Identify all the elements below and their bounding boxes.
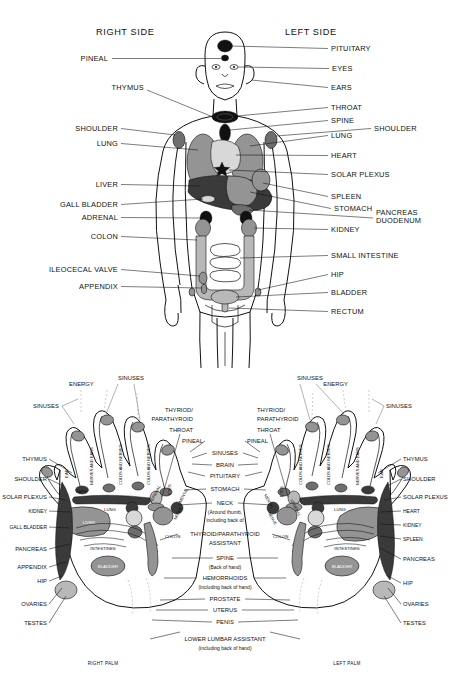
palm-label-intestines-right: INTESTINES — [90, 546, 115, 551]
body-label-lung: LUNG — [97, 139, 118, 148]
body-label-lung-right: LUNG — [331, 131, 352, 140]
hand-label-appendix-left: APPENDIX — [17, 564, 47, 570]
body-label-spleen: SPLEEN — [331, 192, 361, 201]
pituitary-point — [218, 40, 233, 52]
body-label-thymus: THYMUS — [112, 83, 144, 92]
hand-label-thyroid-right-1: THYRIOD/ — [165, 407, 193, 413]
hand-label-throat-left: THROAT — [257, 427, 281, 433]
gall-bladder-organ — [201, 196, 215, 203]
hand-label-thymus-right: THYMUS — [403, 456, 428, 462]
palm-label-colon-right: COLON — [165, 534, 180, 539]
body-label-eyes: EYES — [332, 64, 353, 73]
hand-label-heart-right: HEART — [403, 508, 420, 514]
center-label-thyroid-assistant-2: ASSISTANT — [209, 540, 242, 546]
spine-point — [220, 124, 231, 142]
palm-label-colon-left: COLON — [273, 534, 288, 539]
body-label-pineal: PINEAL — [81, 54, 109, 63]
body-label-colon: COLON — [91, 232, 118, 241]
hand-label-sinuses-right-top: SINUSES — [118, 375, 144, 381]
caption-right-palm: RIGHT PALM — [88, 661, 119, 666]
body-label-small-intestine: SMALL INTESTINE — [331, 251, 399, 260]
hand-label-throat-right: THROAT — [169, 427, 193, 433]
body-label-bladder: BLADDER — [331, 288, 367, 297]
finger-label-eyes-left: EYES — [279, 486, 284, 497]
body-label-appendix: APPENDIX — [79, 282, 118, 291]
hand-label-sinuses-left-top: SINUSES — [297, 375, 323, 381]
hand-label-ovaries-left: OVARIES — [21, 601, 47, 607]
kidney-zone-left — [308, 526, 322, 538]
center-label-brain: BRAIN — [216, 462, 234, 468]
hand-label-sinuses-right-outer: SINUSES — [33, 403, 59, 409]
pancreas-zone-right — [126, 510, 142, 526]
appendix-point — [201, 284, 206, 293]
ears-pad-left — [362, 486, 375, 494]
body-label-shoulder: SHOULDER — [75, 124, 118, 133]
ileocecal-valve-point — [199, 272, 207, 284]
heading-left-side: LEFT SIDE — [285, 27, 337, 37]
hand-label-hip-left: HIP — [37, 578, 47, 584]
hip-left — [255, 288, 261, 296]
neck-zone-left — [277, 507, 297, 525]
body-label-ileocecal-valve: ILEOCECAL VALVE — [49, 265, 118, 274]
hand-label-energy-left: ENERGY — [323, 381, 348, 387]
body-label-heart: HEART — [331, 151, 357, 160]
finger-label-nerves-ears-right: NERVES AND EARS — [89, 447, 94, 485]
hand-label-ovaries-right: OVARIES — [403, 601, 429, 607]
body-label-solar-plexus: SOLAR PLEXUS — [331, 170, 390, 179]
center-label-sinuses: SINUSES — [212, 450, 238, 456]
colds-nerves-pad-left-2 — [335, 484, 347, 492]
finger-label-colds-nerves-right-2: COLDS AND NERVES — [146, 444, 151, 485]
kidney-right — [196, 219, 211, 237]
finger-label-colds-nerves-left-2: COLDS AND NERVES — [298, 444, 303, 485]
shoulder-point-right — [173, 132, 185, 149]
body-label-adrenal: ADRENAL — [82, 213, 118, 222]
center-label-uterus: UTERUS — [213, 607, 237, 613]
center-label-thyroid-assistant-1: THYROID/PARATHYROID — [190, 531, 260, 537]
hand-label-pancreas-right: PANCREAS — [403, 556, 435, 562]
finger-label-colds-nerves-right-1: COLDS AND NERVES — [118, 444, 123, 485]
hand-label-kidney-right: KIDNEY — [403, 522, 422, 528]
body-label-throat: THROAT — [331, 103, 362, 112]
hand-label-sinuses-left-outer: SINUSES — [386, 403, 412, 409]
body-label-stomach: STOMACH — [334, 204, 372, 213]
colds-nerves-pad-right-2 — [103, 484, 115, 492]
hand-label-gall-bladder-left: GALL BLADDER — [9, 524, 47, 530]
finger-label-ear-right: EAR — [64, 469, 69, 478]
body-label-spine: SPINE — [331, 116, 354, 125]
hand-label-thyroid-left-1: THYRIOD/ — [257, 407, 285, 413]
center-label-prostate: PROSTATE — [210, 596, 241, 602]
heading-right-side: RIGHT SIDE — [96, 27, 154, 37]
lung-zone-left — [300, 495, 378, 505]
finger-label-ear-left: EAR — [379, 469, 384, 478]
palm-label-intestines-left: INTESTINES — [334, 546, 359, 551]
body-label-rectum: RECTUM — [331, 307, 364, 316]
hand-label-pineal-right: PINEAL — [182, 438, 204, 444]
center-label-spine: SPINE — [216, 555, 234, 561]
bladder-organ — [211, 290, 239, 304]
hand-label-thymus-left: THYMUS — [22, 456, 47, 462]
center-label-lower-lumbar: LOWER LUMBAR ASSISTANT — [184, 636, 266, 642]
center-label-neck-sub2: including back of — [206, 517, 244, 523]
center-label-stomach: STOMACH — [210, 486, 239, 492]
center-label-hemorrhoids: HEMORRHOIDS — [203, 575, 248, 581]
finger-label-colds-nerves-left-1: COLDS AND NERVES — [326, 444, 331, 485]
body-label-pituitary: PITUITARY — [331, 44, 371, 53]
center-label-penis: PENIS — [216, 619, 234, 625]
hand-label-spleen-right: SPLEEN — [403, 536, 423, 542]
body-label-ears: EARS — [331, 83, 352, 92]
hip-right — [189, 288, 195, 296]
hand-label-hip-right: HIP — [403, 580, 413, 586]
hand-label-shoulder-left: SHOULDER — [14, 476, 47, 482]
finger-label-ears-base-right: EARS — [76, 489, 87, 494]
palm-label-bladder-right: BLADDER — [98, 564, 118, 569]
hand-label-thyroid-left-2: PARATHYROID — [257, 416, 299, 422]
pancreas-zone-left — [308, 510, 324, 526]
reflexology-chart: RIGHT SIDE LEFT SIDE — [0, 0, 450, 687]
spleen-organ — [252, 169, 270, 191]
throat-thymus-point — [212, 111, 238, 123]
palm-label-lung-left: LUNG — [334, 507, 347, 512]
body-label-gall-bladder: GALL BLADDER — [60, 200, 118, 209]
body-label-shoulder-right: SHOULDER — [374, 124, 417, 133]
center-label-neck-sub1: (Around thumb, — [208, 509, 242, 515]
finger-label-nerves-ears-left: NERVES AND EARS — [355, 447, 360, 485]
